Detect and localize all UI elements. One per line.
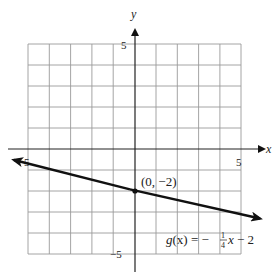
line-g xyxy=(14,160,130,189)
y-tick-bottom: −5 xyxy=(110,248,122,260)
svg-text:g(x) = −: g(x) = − xyxy=(166,232,209,247)
line-g-right xyxy=(130,189,260,218)
svg-text:1: 1 xyxy=(221,231,225,240)
y-tick-top: 5 xyxy=(121,39,127,51)
y-intercept-point xyxy=(132,188,137,193)
x-tick-right: 5 xyxy=(236,156,242,168)
svg-text:x − 2: x − 2 xyxy=(227,232,254,247)
point-label: (0, −2) xyxy=(141,174,177,189)
svg-text:4: 4 xyxy=(221,241,225,250)
coordinate-plane: x y 5 −5 5 5 (0, −2) g(x) = − 1 4 x − 2 xyxy=(0,0,276,277)
y-axis-label: y xyxy=(130,7,137,21)
x-axis-label: x xyxy=(265,142,272,156)
